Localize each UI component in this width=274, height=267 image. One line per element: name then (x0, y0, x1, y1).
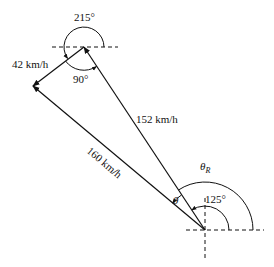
label-theta-R: θR (200, 160, 210, 175)
label-theta: θ (173, 194, 179, 206)
vector-160 (33, 86, 205, 230)
label-215: 215° (74, 11, 95, 23)
label-125: 125° (205, 193, 226, 205)
angle-90-arc (66, 61, 97, 70)
label-90: 90° (73, 73, 88, 85)
label-160-kmh: 160 km/h (85, 144, 125, 180)
vector-diagram: 215° 90° 42 km/h 152 km/h 160 km/h θR θ … (0, 0, 274, 267)
angle-215-arc (64, 27, 104, 58)
vector-152 (84, 47, 205, 230)
label-152-kmh: 152 km/h (136, 113, 178, 125)
label-42-kmh: 42 km/h (12, 58, 49, 70)
